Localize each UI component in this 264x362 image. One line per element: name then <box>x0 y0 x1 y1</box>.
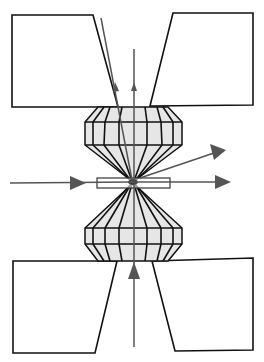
upper-seat-right <box>150 13 253 106</box>
upper-seat-left <box>12 15 118 107</box>
diagram-canvas <box>0 0 264 362</box>
lower-seat-left <box>13 261 117 353</box>
arrowhead-transmitted-icon <box>215 175 231 189</box>
lower-seat-right <box>152 258 253 351</box>
arrowhead-diffracted-icon <box>210 144 226 160</box>
diamond-anvil-cell-diagram <box>0 0 264 362</box>
arrowhead-axial-bottom-icon <box>128 262 140 279</box>
arrowhead-axial-top-icon <box>131 82 137 91</box>
arrowhead-incident-icon <box>70 176 86 190</box>
